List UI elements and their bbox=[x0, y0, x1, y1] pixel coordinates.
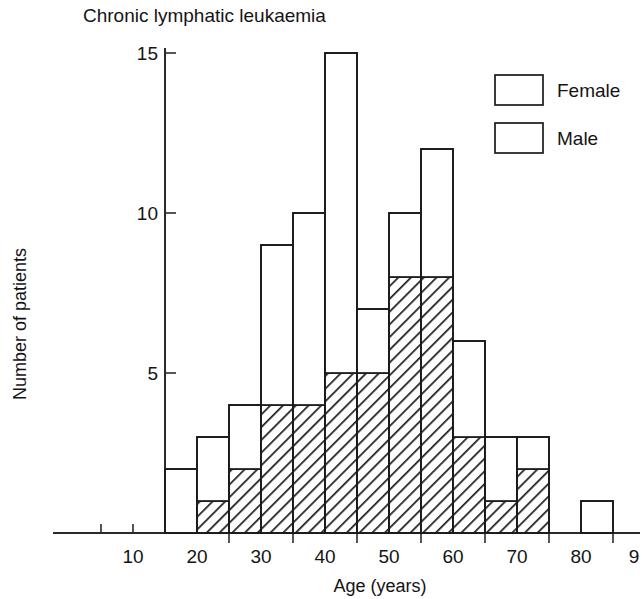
bar-segment-female bbox=[293, 213, 325, 405]
bar-segment-male bbox=[293, 405, 325, 533]
histogram-bar bbox=[165, 469, 197, 533]
x-tick-label-50: 50 bbox=[378, 546, 399, 567]
histogram-bar bbox=[293, 213, 325, 533]
histogram-bar bbox=[581, 501, 613, 533]
bar-segment-male bbox=[421, 277, 453, 533]
y-tick-label-5: 5 bbox=[147, 363, 158, 384]
histogram-bar bbox=[229, 405, 261, 533]
bar-segment-female bbox=[485, 437, 517, 501]
bar-segment-female bbox=[581, 501, 613, 533]
bar-segment-male bbox=[485, 501, 517, 533]
y-axis-ticks bbox=[165, 53, 176, 373]
bar-segment-female bbox=[325, 53, 357, 373]
y-tick-label-10: 10 bbox=[137, 203, 158, 224]
y-axis-title: Number of patients bbox=[10, 248, 30, 400]
histogram-bar bbox=[357, 309, 389, 533]
x-axis-ticks bbox=[229, 533, 613, 543]
histogram-bar bbox=[453, 341, 485, 533]
bar-segment-male bbox=[229, 469, 261, 533]
y-tick-label-15: 15 bbox=[137, 43, 158, 64]
x-axis-tick-labels: 10 20 30 40 50 60 70 80 9 bbox=[122, 546, 639, 567]
legend-swatch-female bbox=[495, 75, 543, 105]
x-tick-label-60: 60 bbox=[442, 546, 463, 567]
chart-title: Chronic lymphatic leukaemia bbox=[83, 5, 326, 26]
x-tick-label-70: 70 bbox=[506, 546, 527, 567]
histogram-bar bbox=[197, 437, 229, 533]
x-axis-minor-ticks bbox=[101, 524, 133, 533]
bar-segment-male bbox=[261, 405, 293, 533]
bar-segment-male bbox=[389, 277, 421, 533]
bar-segment-female bbox=[421, 149, 453, 277]
histogram-bar bbox=[261, 245, 293, 533]
x-tick-label-90: 9 bbox=[629, 546, 640, 567]
x-tick-label-40: 40 bbox=[314, 546, 335, 567]
bar-segment-male bbox=[453, 437, 485, 533]
legend-label-male: Male bbox=[557, 128, 598, 149]
histogram-svg: Chronic lymphatic leukaemia 15 10 5 Numb… bbox=[0, 0, 642, 599]
bar-segment-female bbox=[389, 213, 421, 277]
x-tick-label-10: 10 bbox=[122, 546, 143, 567]
legend-label-female: Female bbox=[557, 80, 620, 101]
bar-segment-female bbox=[229, 405, 261, 469]
x-tick-label-20: 20 bbox=[186, 546, 207, 567]
bar-segment-female bbox=[517, 437, 549, 469]
histogram-bar bbox=[389, 213, 421, 533]
bar-segment-male bbox=[517, 469, 549, 533]
x-tick-label-30: 30 bbox=[250, 546, 271, 567]
chart-figure: Chronic lymphatic leukaemia 15 10 5 Numb… bbox=[0, 0, 642, 599]
legend-swatch-male bbox=[495, 123, 543, 153]
histogram-bar bbox=[325, 53, 357, 533]
histogram-bar bbox=[421, 149, 453, 533]
y-axis-tick-labels: 15 10 5 bbox=[137, 43, 158, 384]
bar-segment-male bbox=[357, 373, 389, 533]
bar-segment-male bbox=[325, 373, 357, 533]
legend: Female Male bbox=[495, 75, 620, 153]
x-tick-label-80: 80 bbox=[570, 546, 591, 567]
bar-segment-male bbox=[197, 501, 229, 533]
histogram-bar bbox=[517, 437, 549, 533]
bar-segment-female bbox=[357, 309, 389, 373]
bar-segment-female bbox=[261, 245, 293, 405]
bar-segment-female bbox=[165, 469, 197, 533]
bars-layer bbox=[165, 53, 613, 533]
bar-segment-female bbox=[453, 341, 485, 437]
histogram-bar bbox=[485, 437, 517, 533]
x-axis-title: Age (years) bbox=[333, 576, 426, 596]
bar-segment-female bbox=[197, 437, 229, 501]
